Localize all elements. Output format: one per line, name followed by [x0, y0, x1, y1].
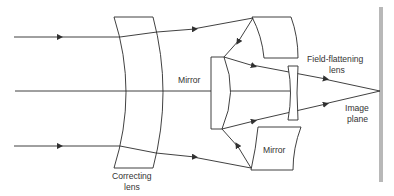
label-correcting-line1: Correcting: [112, 171, 152, 181]
label-field-flattening-line2: lens: [329, 65, 345, 75]
lower-incoming-ray: [14, 146, 251, 168]
label-image-plane-line1: Image: [345, 103, 369, 113]
label-field-flattening-line1: Field-flattening: [307, 54, 364, 64]
field-flattening-lens: [288, 66, 298, 120]
central-mirror: [211, 57, 231, 129]
label-central-mirror: Mirror: [178, 75, 201, 85]
label-lower-mirror: Mirror: [263, 145, 286, 155]
optical-diagram: Mirror Mirror Field-flattening lens Imag…: [0, 0, 394, 196]
label-correcting-line2: lens: [124, 182, 140, 192]
image-plane: [379, 7, 383, 182]
label-image-plane-line2: plane: [347, 114, 368, 124]
correcting-lens: [114, 17, 163, 168]
upper-incoming-ray: [14, 18, 253, 37]
upper-mirror: [252, 17, 298, 58]
